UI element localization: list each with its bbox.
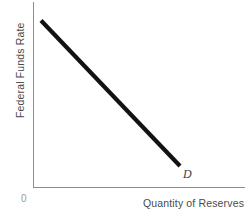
- reserves-demand-chart: Federal Funds Rate Quantity of Reserves …: [0, 0, 250, 218]
- y-axis-label: Federal Funds Rate: [14, 22, 26, 118]
- demand-curve-label: D: [182, 167, 192, 181]
- chart-figure: Federal Funds Rate Quantity of Reserves …: [0, 0, 250, 218]
- origin-label: 0: [21, 193, 27, 204]
- x-axis-label: Quantity of Reserves: [143, 197, 244, 209]
